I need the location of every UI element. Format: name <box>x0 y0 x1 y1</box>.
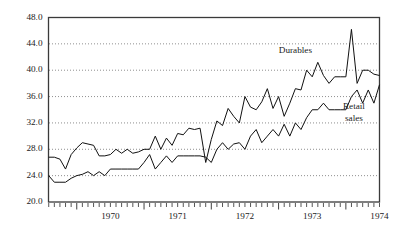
y-axis-tick-label: 28.0 <box>26 143 42 153</box>
series-annotations-group: DurablesRetailsales <box>279 45 366 124</box>
y-axis-tick-label: 24.0 <box>26 170 42 180</box>
retail-sales-label-line2: sales <box>345 113 363 123</box>
x-axis-tick-labels: 19701971197219731974 <box>101 211 389 221</box>
y-axis-tick-label: 44.0 <box>26 38 42 48</box>
y-axis-tick-label: 40.0 <box>26 64 42 74</box>
chart-page: 48.044.040.036.032.028.024.020.0 1970197… <box>0 0 400 241</box>
x-axis-tick-label: 1973 <box>303 211 322 221</box>
x-axis-tick-label: 1972 <box>236 211 255 221</box>
durables-label: Durables <box>279 45 313 55</box>
y-axis-tick-label: 32.0 <box>26 117 42 127</box>
y-axis-tick-labels: 48.044.040.036.032.028.024.020.0 <box>26 12 42 207</box>
x-axis-tick-label: 1970 <box>101 211 120 221</box>
retail-sales-label-line1: Retail <box>343 101 365 111</box>
series-line <box>49 29 380 169</box>
y-axis-tick-label: 36.0 <box>26 91 42 101</box>
x-axis-tick-label: 1971 <box>168 211 187 221</box>
data-series-group <box>49 29 380 182</box>
y-axis-tick-label: 20.0 <box>26 196 42 206</box>
time-series-chart: 48.044.040.036.032.028.024.020.0 1970197… <box>0 0 400 241</box>
y-axis-tick-label: 48.0 <box>26 12 42 22</box>
x-axis-tick-marks <box>49 203 380 210</box>
series-line <box>49 85 380 183</box>
x-axis-tick-label: 1974 <box>370 211 389 221</box>
